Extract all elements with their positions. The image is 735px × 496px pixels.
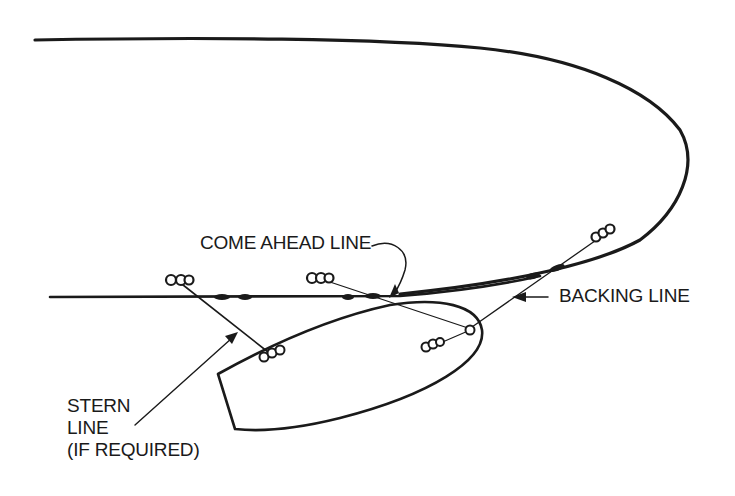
label-stern-line-3: (IF REQUIRED) xyxy=(67,439,200,461)
come-ahead-pointer xyxy=(372,243,406,294)
bollard-icon xyxy=(166,275,194,285)
label-stern-line: STERN LINE (IF REQUIRED) xyxy=(67,395,200,461)
ring-icon xyxy=(466,326,475,335)
cleat-icon xyxy=(422,338,445,352)
splice-mark xyxy=(342,294,354,300)
splice-mark xyxy=(238,294,252,300)
splice-mark xyxy=(365,293,381,299)
stern-line xyxy=(178,281,268,352)
label-backing-line: BACKING LINE xyxy=(559,285,690,307)
bollard-icon xyxy=(307,273,334,283)
label-stern-line-1: STERN xyxy=(67,395,200,417)
bollard-icon xyxy=(592,225,615,242)
boat-hull xyxy=(218,302,482,430)
label-stern-line-2: LINE xyxy=(67,417,200,439)
splice-mark xyxy=(214,294,230,300)
pier-outline xyxy=(35,39,688,294)
label-come-ahead-line: COME AHEAD LINE xyxy=(200,232,371,254)
